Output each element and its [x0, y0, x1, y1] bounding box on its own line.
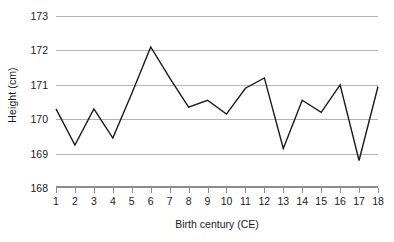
x-axis-line — [56, 186, 378, 188]
x-axis-tick-mark — [113, 188, 114, 193]
y-axis-tick-label: 171 — [22, 80, 48, 91]
x-axis-tick-label: 9 — [198, 196, 218, 207]
x-axis-tick-mark — [56, 188, 57, 193]
x-axis-tick-mark — [302, 188, 303, 193]
x-axis-tick-mark — [226, 188, 227, 193]
x-axis-tick-label: 15 — [311, 196, 331, 207]
x-axis-tick-mark — [283, 188, 284, 193]
x-axis-tick-label: 4 — [103, 196, 123, 207]
x-axis-tick-mark — [245, 188, 246, 193]
y-axis-tick-label: 172 — [22, 45, 48, 56]
plot-area — [56, 16, 378, 188]
series-polyline — [56, 47, 378, 161]
y-axis-title: Height (cm) — [0, 0, 24, 190]
y-axis-tick-label: 173 — [22, 11, 48, 22]
x-axis-tick-label: 3 — [84, 196, 104, 207]
x-axis-tick-label: 10 — [216, 196, 236, 207]
x-axis-tick-label: 18 — [368, 196, 388, 207]
x-axis-tick-mark — [321, 188, 322, 193]
y-axis-tick-label: 170 — [22, 114, 48, 125]
x-axis-tick-label: 6 — [141, 196, 161, 207]
y-axis-tick-label: 168 — [22, 183, 48, 194]
x-axis-tick-label: 7 — [160, 196, 180, 207]
x-axis-tick-mark — [94, 188, 95, 193]
y-axis-tick-label: 169 — [22, 149, 48, 160]
x-axis-tick-mark — [189, 188, 190, 193]
x-axis-tick-label: 8 — [179, 196, 199, 207]
x-axis-tick-mark — [75, 188, 76, 193]
x-axis-tick-mark — [264, 188, 265, 193]
y-axis-title-label: Height (cm) — [6, 67, 18, 122]
x-axis-tick-mark — [170, 188, 171, 193]
x-axis-tick-label: 16 — [330, 196, 350, 207]
x-axis-tick-mark — [208, 188, 209, 193]
x-axis-tick-mark — [340, 188, 341, 193]
line-chart: Height (cm) 168169170171172173 123456789… — [0, 0, 394, 242]
x-axis-tick-mark — [132, 188, 133, 193]
x-axis-title: Birth century (CE) — [56, 218, 378, 230]
x-axis-tick-label: 17 — [349, 196, 369, 207]
x-axis-tick-label: 2 — [65, 196, 85, 207]
x-axis-tick-label: 12 — [254, 196, 274, 207]
x-axis-tick-label: 5 — [122, 196, 142, 207]
x-axis-tick-label: 11 — [235, 196, 255, 207]
x-axis-tick-mark — [359, 188, 360, 193]
x-axis-tick-label: 1 — [46, 196, 66, 207]
x-axis-tick-mark — [151, 188, 152, 193]
series-line — [56, 16, 378, 188]
x-axis-tick-label: 14 — [292, 196, 312, 207]
x-axis-tick-label: 13 — [273, 196, 293, 207]
x-axis-tick-mark — [378, 188, 379, 193]
